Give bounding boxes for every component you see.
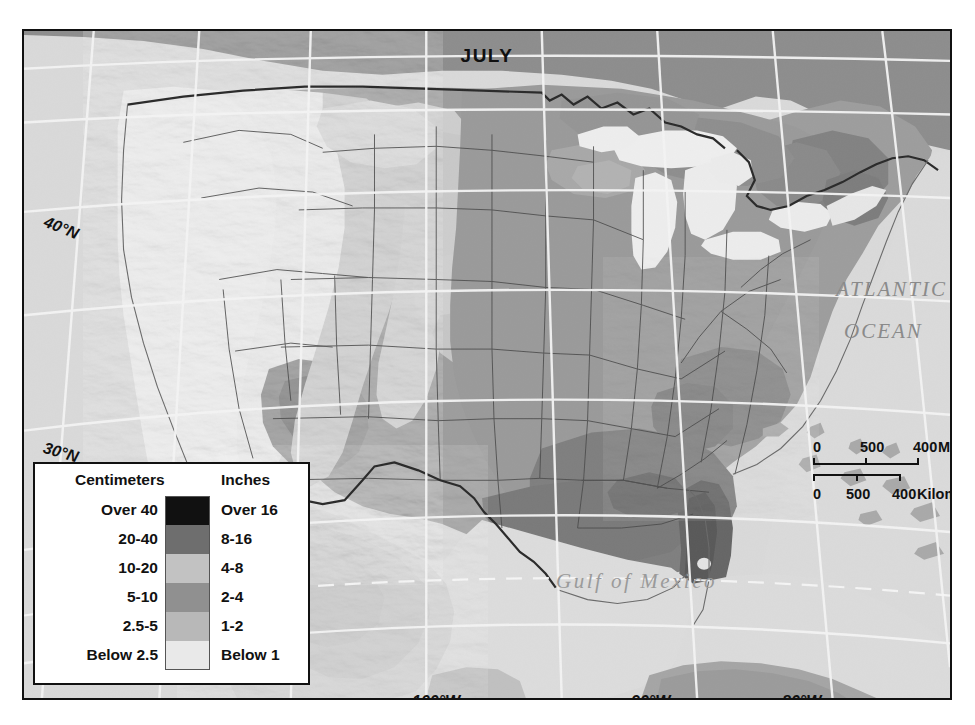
legend-row: Over 40 Over 16 (35, 496, 308, 525)
scale-miles-mid: 500 (860, 439, 884, 455)
longitude-label-90w: 90°W (631, 693, 670, 700)
legend-heading-centimeters: Centimeters (75, 471, 165, 489)
legend-cm-value: 2.5-5 (123, 617, 158, 635)
scale-km-unit: Kilometers (917, 486, 952, 502)
legend-swatch (165, 554, 210, 583)
scale-km-mid: 500 (846, 486, 870, 502)
legend-row: 10-20 4-8 (35, 554, 308, 583)
scale-miles-end: 400 (913, 439, 937, 455)
scale-km-end: 400 (892, 486, 916, 502)
page-title: JULY (24, 45, 950, 67)
scale-miles-tick (865, 458, 867, 465)
label-gulf-of-mexico: Gulf of Mexico (556, 569, 717, 594)
legend-row: 5-10 2-4 (35, 583, 308, 612)
legend-in-value: Below 1 (221, 646, 280, 664)
scale-miles-start: 0 (813, 439, 821, 455)
legend-cm-value: 10-20 (118, 559, 158, 577)
legend-in-value: Over 16 (221, 501, 278, 519)
scale-km-start: 0 (813, 486, 821, 502)
longitude-label-100w: 100°W (412, 693, 460, 700)
scale-km-tick (856, 474, 858, 481)
map-page: JULY ATLANTIC OCEAN Gulf of Mexico 40°N … (0, 0, 975, 725)
legend-swatch (165, 612, 210, 641)
legend-in-value: 8-16 (221, 530, 252, 548)
scale-bar: 0 500 400 Miles 0 500 400 Kilometers (813, 439, 952, 505)
legend-cm-value: 5-10 (127, 588, 158, 606)
legend-swatch (165, 641, 210, 670)
legend: Centimeters Inches Over 40 Over 16 20-40… (33, 462, 310, 685)
longitude-label-80w: 80°W (782, 693, 821, 700)
legend-swatch (165, 525, 210, 554)
scale-miles-labels: 0 500 400 Miles (813, 439, 952, 458)
legend-in-value: 2-4 (221, 588, 243, 606)
scale-miles-line (813, 458, 952, 467)
legend-row: Below 2.5 Below 1 (35, 641, 308, 670)
legend-heading-inches: Inches (221, 471, 270, 489)
legend-cm-value: Below 2.5 (87, 646, 159, 664)
legend-swatch (165, 496, 210, 525)
legend-header: Centimeters Inches (35, 464, 308, 494)
legend-in-value: 4-8 (221, 559, 243, 577)
scale-km-labels: 0 500 400 Kilometers (813, 486, 952, 505)
scale-km-line (813, 474, 952, 483)
legend-cm-value: Over 40 (101, 501, 158, 519)
legend-row: 20-40 8-16 (35, 525, 308, 554)
legend-row: 2.5-5 1-2 (35, 612, 308, 641)
legend-rows: Over 40 Over 16 20-40 8-16 10-20 4-8 5-1… (35, 496, 308, 670)
label-atlantic-ocean-line2: OCEAN (844, 319, 923, 344)
label-atlantic-ocean-line1: ATLANTIC (836, 277, 947, 302)
legend-in-value: 1-2 (221, 617, 243, 635)
legend-cm-value: 20-40 (118, 530, 158, 548)
legend-swatch (165, 583, 210, 612)
scale-miles-unit: Miles (938, 439, 952, 455)
